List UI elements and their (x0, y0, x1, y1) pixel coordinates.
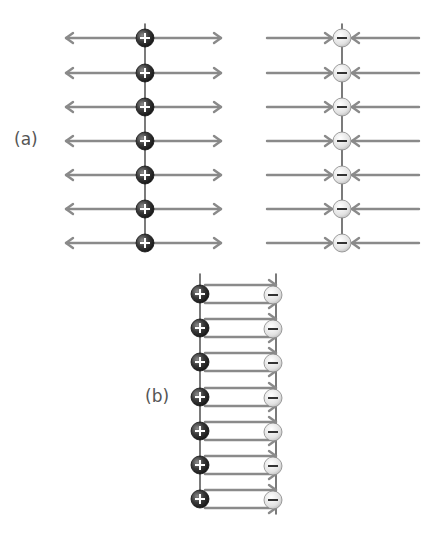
panel-a-label: (a) (14, 129, 38, 149)
panel-b-label: (b) (145, 386, 169, 406)
field-diagram (0, 0, 441, 533)
